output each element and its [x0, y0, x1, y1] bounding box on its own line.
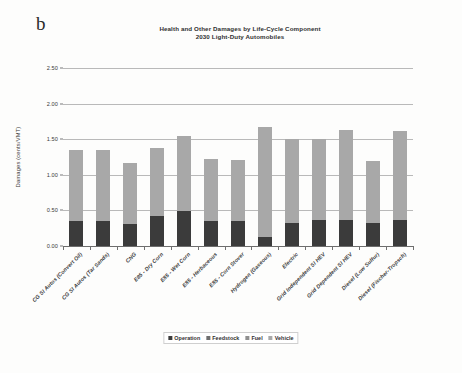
legend-label: Feedstock [212, 335, 239, 341]
x-tick-label: Diesel (Fischer-Tropsch) [356, 251, 407, 302]
bar-segment-operation [366, 223, 380, 246]
x-tick-label: E85 - Dry Corn [133, 251, 165, 283]
y-tick-mark [60, 210, 63, 211]
axis-baseline [63, 246, 413, 247]
legend-label: Fuel [251, 335, 262, 341]
y-tick-label: 0.50 [47, 207, 58, 213]
bar-segment-vehicle [123, 163, 137, 224]
bar-segment-operation [393, 220, 407, 246]
bar-segment-operation [177, 211, 191, 246]
bar-segment-operation [285, 223, 299, 246]
legend-swatch-icon [245, 336, 249, 340]
bar-segment-operation [204, 221, 218, 246]
bar [204, 159, 218, 246]
y-tick-mark [60, 68, 63, 69]
x-tick-mark [332, 246, 333, 250]
x-tick-label: Diesel (Low Sulfur) [340, 251, 380, 291]
bar [393, 131, 407, 246]
bar-segment-vehicle [339, 130, 353, 220]
x-tick-mark [171, 246, 172, 250]
bar-segment-vehicle [150, 148, 164, 216]
bar-segment-operation [96, 221, 110, 246]
legend-item: Vehicle [269, 335, 294, 341]
x-tick-mark [359, 246, 360, 250]
x-tick-mark [386, 246, 387, 250]
y-tick-label: 2.50 [47, 65, 58, 71]
legend-label: Operation [174, 335, 200, 341]
legend-label: Vehicle [275, 335, 294, 341]
x-tick-mark [63, 246, 64, 250]
y-tick-label: 1.00 [47, 172, 58, 178]
x-tick-label: CNG [125, 251, 138, 264]
x-tick-mark [305, 246, 306, 250]
x-tick-label: Grid Dependent SI HEV [305, 251, 353, 299]
bar-segment-operation [339, 220, 353, 246]
legend-item: Operation [168, 335, 200, 341]
chart-legend: OperationFeedstockFuelVehicle [163, 332, 298, 344]
bar-segment-operation [258, 237, 272, 246]
bar [177, 136, 191, 246]
bar [285, 139, 299, 246]
gridline [63, 139, 413, 140]
chart-title-block: Health and Other Damages by Life-Cycle C… [95, 25, 385, 40]
bar-segment-vehicle [69, 150, 83, 221]
y-axis-title: Damages (cents/VMT) [15, 127, 21, 188]
y-tick-mark [60, 103, 63, 104]
bar-segment-operation [123, 224, 137, 246]
x-tick-label: CG SI Autos (Convert Oil) [31, 251, 83, 303]
legend-item: Fuel [245, 335, 262, 341]
x-tick-mark [278, 246, 279, 250]
x-tick-label: Grid Independent SI HEV [275, 251, 326, 302]
bar-segment-vehicle [204, 159, 218, 221]
y-tick-mark [60, 174, 63, 175]
x-tick-label: CG SI Autos (Tar Sands) [61, 251, 111, 301]
x-tick-mark [225, 246, 226, 250]
chart-title: Health and Other Damages by Life-Cycle C… [95, 25, 385, 33]
x-tick-mark [144, 246, 145, 250]
chart-subtitle: 2030 Light-Duty Automobiles [95, 33, 385, 41]
bar-segment-operation [231, 221, 245, 246]
bar-segment-vehicle [393, 131, 407, 220]
bar-segment-operation [312, 220, 326, 246]
bar-segment-vehicle [366, 161, 380, 223]
bar [339, 130, 353, 246]
x-tick-mark [413, 246, 414, 250]
x-tick-mark [198, 246, 199, 250]
bar-segment-vehicle [285, 139, 299, 223]
bar [69, 150, 83, 246]
bar-segment-vehicle [258, 127, 272, 237]
bar-segment-operation [150, 216, 164, 246]
x-tick-mark [251, 246, 252, 250]
y-tick-label: 2.00 [47, 101, 58, 107]
x-tick-label: E85 - Wet Corn [159, 251, 191, 283]
y-tick-mark [60, 139, 63, 140]
legend-item: Feedstock [206, 335, 239, 341]
bar [231, 160, 245, 246]
legend-swatch-icon [206, 336, 210, 340]
x-tick-label: Hydrogen (Gaseous) [229, 251, 272, 294]
bar-segment-operation [69, 221, 83, 246]
panel-letter: b [36, 13, 46, 35]
bar-segment-vehicle [177, 136, 191, 211]
gridline [63, 104, 413, 105]
bar [258, 127, 272, 246]
bar-segment-vehicle [96, 150, 110, 221]
bar-segment-vehicle [312, 139, 326, 220]
bar [123, 163, 137, 246]
x-tick-label: E85 - Corn Stover [208, 251, 245, 288]
x-tick-label: E85 - Herbaceous [181, 251, 218, 288]
figure-panel-b: b Health and Other Damages by Life-Cycle… [0, 0, 462, 373]
bar [150, 148, 164, 246]
plot-area: 0.000.501.001.502.002.50 [63, 68, 413, 246]
x-tick-label: Electric [281, 251, 300, 270]
legend-swatch-icon [168, 336, 172, 340]
legend-swatch-icon [269, 336, 273, 340]
bar-segment-vehicle [231, 160, 245, 221]
bar [312, 139, 326, 246]
y-tick-label: 0.00 [47, 243, 58, 249]
gridline [63, 68, 413, 69]
bar [96, 150, 110, 246]
x-tick-mark [90, 246, 91, 250]
y-tick-label: 1.50 [47, 136, 58, 142]
x-tick-mark [117, 246, 118, 250]
